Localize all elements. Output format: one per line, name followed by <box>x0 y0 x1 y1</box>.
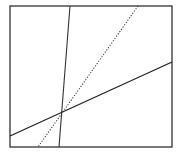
frame-rectangle <box>10 6 172 147</box>
steep-solid-line <box>59 6 70 147</box>
dotted-line <box>38 6 138 147</box>
diagram-canvas <box>0 0 180 155</box>
line-intersection-diagram <box>0 0 180 155</box>
